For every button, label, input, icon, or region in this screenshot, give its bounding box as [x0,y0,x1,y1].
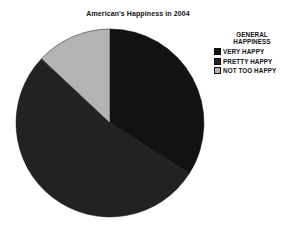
legend-label-pretty-happy: PRETTY HAPPY [223,58,272,65]
legend-item-not-too-happy: NOT TOO HAPPY [214,66,290,76]
legend-item-pretty-happy: PRETTY HAPPY [214,57,290,67]
legend-swatch-very-happy [214,48,221,55]
legend-items: VERY HAPPY PRETTY HAPPY NOT TOO HAPPY [214,47,290,76]
legend-title: GENERAL HAPPINESS [214,31,290,45]
legend-title-line2: HAPPINESS [214,38,290,45]
legend-item-very-happy: VERY HAPPY [214,47,290,57]
chart-canvas: American's Happiness in 2004 GENERAL HAP… [0,0,294,232]
legend-label-not-too-happy: NOT TOO HAPPY [223,67,276,74]
legend-label-very-happy: VERY HAPPY [223,48,264,55]
legend-swatch-not-too-happy [214,67,221,74]
legend-swatch-pretty-happy [214,58,221,65]
legend-title-line1: GENERAL [214,31,290,38]
legend: GENERAL HAPPINESS VERY HAPPY PRETTY HAPP… [214,31,290,76]
